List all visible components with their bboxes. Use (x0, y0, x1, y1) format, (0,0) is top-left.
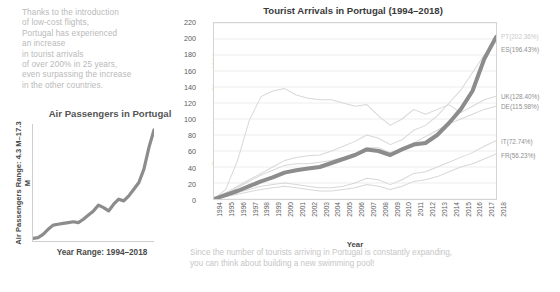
x-axis-tick-label: 1998 (263, 202, 270, 217)
x-axis-tick-label: 2010 (405, 202, 412, 217)
chart-plot-area (213, 22, 497, 200)
air-passengers-panel: Air Passengers in Portugal Air Passenger… (4, 108, 194, 268)
x-axis-tick-label: 2009 (394, 202, 401, 217)
x-axis-tick-label: 1999 (275, 202, 282, 217)
x-axis-tick-label: 2006 (358, 202, 365, 217)
series-label-it: IT(72.74%) (501, 138, 533, 145)
x-axis-tick-label: 2016 (476, 202, 483, 217)
infographic-root: Thanks to the introduction of low-cost f… (0, 0, 560, 292)
x-axis-tick-label: 2002 (311, 202, 318, 217)
x-axis-tick-label: 2004 (334, 202, 341, 217)
x-axis-tick-label: 2000 (287, 202, 294, 217)
y-axis-tick-label: 200 (170, 34, 196, 43)
annotation-text: Thanks to the introduction of low-cost f… (22, 8, 182, 91)
series-line-pt (214, 37, 496, 199)
y-axis-tick-label: 60 (170, 147, 196, 156)
chart-title: Tourist Arrivals in Portugal (1994–2018) (188, 5, 518, 16)
x-axis-tick-label: 2003 (323, 202, 330, 217)
y-axis-tick-label: 120 (170, 98, 196, 107)
y-axis-ticks: 020406080100120140160180200220 (170, 14, 196, 206)
x-axis-tick-label: 2005 (346, 202, 353, 217)
y-axis-tick-label: 80 (170, 131, 196, 140)
x-axis-tick-label: 2007 (370, 202, 377, 217)
series-label-uk: UK(128.40%) (501, 93, 539, 100)
y-axis-tick-label: 40 (170, 163, 196, 172)
x-axis-tick-label: 2008 (382, 202, 389, 217)
series-end-labels: PT(202.36%)ES(196.43%)UK(128.40%)DE(115.… (499, 22, 560, 202)
air-passengers-plot-area (32, 124, 154, 242)
y-axis-tick-label: 100 (170, 115, 196, 124)
air-passengers-y-axis-label: Air Passengers Range: 4.3 M–17.3 M (14, 118, 32, 248)
air-passengers-line (33, 130, 154, 239)
series-label-es: ES(196.43%) (501, 46, 539, 53)
x-axis-ticks: 1994199519961997199819992000200120022003… (213, 202, 497, 244)
x-axis-tick-label: 1997 (252, 202, 259, 217)
x-axis-tick-label: 1996 (240, 202, 247, 217)
y-axis-tick-label: 140 (170, 82, 196, 91)
y-axis-tick-label: 0 (170, 196, 196, 205)
x-axis-tick-label: 2012 (429, 202, 436, 217)
caption-text: Since the number of tourists arriving in… (190, 248, 520, 269)
series-label-fr: FR(56.23%) (501, 151, 535, 158)
series-label-pt: PT(202.36%) (501, 33, 539, 40)
x-axis-tick-label: 2011 (417, 202, 424, 216)
x-axis-tick-label: 2018 (500, 202, 507, 217)
x-axis-tick-label: 1994 (216, 202, 223, 217)
x-axis-tick-label: 2017 (488, 202, 495, 217)
series-lines-svg (214, 23, 496, 199)
x-axis-tick-label: 1995 (228, 202, 235, 217)
x-axis-tick-label: 2013 (441, 202, 448, 217)
y-axis-tick-label: 180 (170, 50, 196, 59)
y-axis-tick-label: 160 (170, 66, 196, 75)
x-axis-tick-label: 2014 (453, 202, 460, 217)
y-axis-tick-label: 220 (170, 18, 196, 27)
y-axis-tick-label: 20 (170, 179, 196, 188)
air-passengers-line-svg (33, 124, 154, 241)
x-axis-tick-label: 2015 (465, 202, 472, 217)
series-label-de: DE(115.98%) (501, 103, 539, 110)
x-axis-tick-label: 2001 (299, 202, 306, 217)
air-passengers-x-axis-label: Year Range: 1994–2018 (12, 248, 192, 257)
